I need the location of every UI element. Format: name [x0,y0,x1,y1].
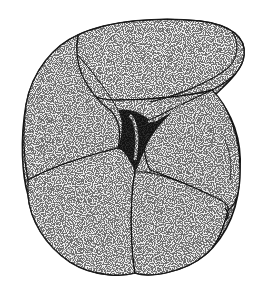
foraminifera-illustration [0,0,265,292]
shell-drawing [0,0,265,292]
stipple-texture [22,19,244,275]
